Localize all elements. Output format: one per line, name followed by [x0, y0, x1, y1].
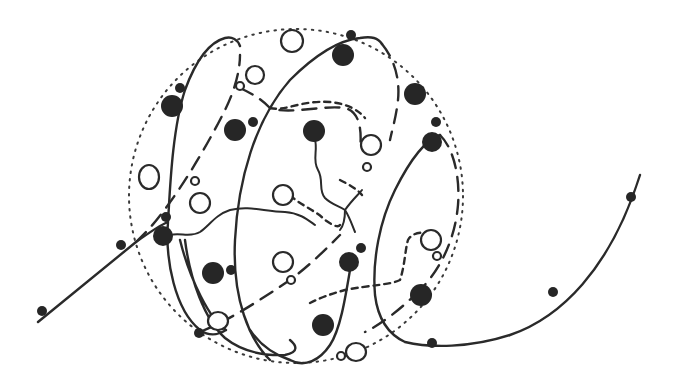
diagram-svg — [0, 0, 682, 385]
coil-diagram — [0, 0, 682, 385]
solid-coil-chain — [38, 37, 640, 363]
filled-particles — [37, 30, 636, 348]
wavy-strand-left — [170, 208, 315, 235]
dotted-sphere-boundary — [129, 29, 463, 363]
